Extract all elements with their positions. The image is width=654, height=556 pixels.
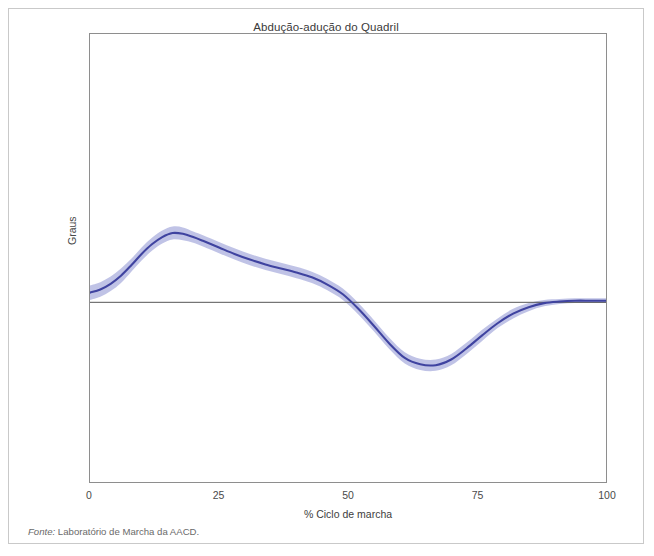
source-label: Fonte: [28, 526, 55, 537]
series-group [90, 233, 606, 366]
x-tick-label-50: 50 [342, 489, 354, 501]
x-axis-tick-labels: 0255075100 [89, 489, 607, 505]
y-axis-label: Graus [66, 216, 78, 245]
chart-plot-svg [90, 34, 606, 482]
series-line-hip-abduction [90, 233, 606, 366]
source-note: Fonte: Laboratório de Marcha da AACD. [28, 526, 199, 537]
plot-area [89, 33, 607, 483]
x-tick-label-0: 0 [86, 489, 92, 501]
x-tick-label-25: 25 [213, 489, 225, 501]
source-value: Laboratório de Marcha da AACD. [55, 526, 199, 537]
figure-frame: Abdução-adução do Quadril Graus 02550751… [8, 8, 644, 544]
clipped-caption [0, 549, 654, 556]
chart-title: Abdução-adução do Quadril [9, 21, 643, 33]
x-axis-label: % Ciclo de marcha [89, 508, 607, 520]
x-tick-label-100: 100 [598, 489, 616, 501]
x-tick-label-75: 75 [472, 489, 484, 501]
